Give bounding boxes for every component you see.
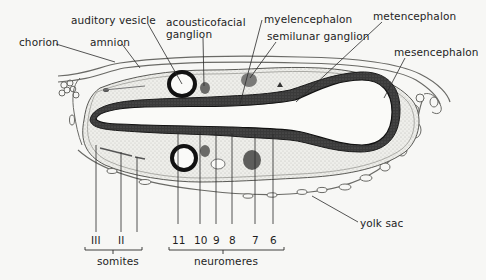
neuromere-11: 11 [172, 235, 186, 246]
somite-III: III [91, 235, 101, 246]
acousticofacial-ganglion-top [200, 82, 210, 94]
label-chorion: chorion [19, 37, 59, 48]
label-amnion: amnion [90, 37, 130, 48]
neuromere-8: 8 [229, 235, 236, 246]
label-yolk-sac: yolk sac [360, 218, 403, 229]
neuromere-7: 7 [252, 235, 259, 246]
label-acousticofacial-line1: acousticofacial [166, 17, 246, 28]
neuromere-6: 6 [270, 235, 277, 246]
label-somites: somites [97, 256, 139, 267]
label-auditory-vesicle: auditory vesicle [71, 15, 156, 26]
label-semilunar-ganglion: semilunar ganglion [267, 31, 370, 42]
embryo-diagram: auditory vesicle acousticofacial ganglio… [0, 0, 486, 280]
label-neuromeres: neuromeres [194, 256, 258, 267]
label-mesencephalon: mesencephalon [394, 47, 479, 58]
yolk-sac-left [59, 78, 82, 145]
diagram-canvas [0, 0, 486, 280]
semilunar-ganglion-top [241, 73, 257, 87]
acousticofacial-ganglion-bottom [200, 145, 210, 157]
label-myelencephalon: myelencephalon [264, 14, 352, 25]
neuromeres-bracket [169, 247, 284, 254]
neuromere-10: 10 [194, 235, 208, 246]
semilunar-ganglion-bottom [243, 150, 261, 170]
somite-II: II [118, 235, 124, 246]
label-metencephalon: metencephalon [373, 11, 456, 22]
brackets [85, 247, 284, 254]
somites-bracket [85, 247, 142, 254]
auditory-vesicle-bottom [172, 146, 196, 170]
neuromere-9: 9 [213, 235, 220, 246]
label-acousticofacial-line2: ganglion [166, 29, 212, 40]
